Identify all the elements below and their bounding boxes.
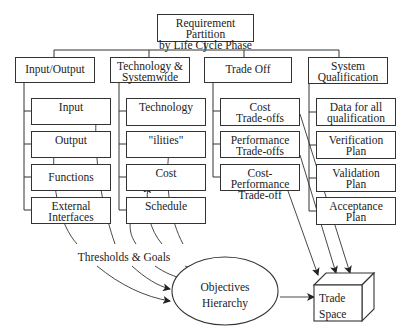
category-technology-systemwide: Technology & Systemwide [110, 57, 190, 83]
root-box: Requirement Partition by Life Cycle Phas… [157, 14, 254, 42]
child-validation-plan: Validation Plan [316, 164, 396, 192]
child-acceptance-plan: Acceptance Plan [316, 197, 396, 225]
thresholds-goals-label: Thresholds & Goals [74, 252, 174, 263]
child-technology: Technology [126, 98, 206, 126]
root-label: Requirement Partition by Life Cycle Phas… [158, 18, 253, 51]
child-functions: Functions [31, 164, 111, 191]
child-cost: Cost [126, 164, 206, 191]
child-input: Input [31, 98, 111, 125]
category-input-output: Input/Output [15, 57, 95, 83]
category-system-qualification: System Qualification [308, 57, 388, 84]
child-output: Output [31, 131, 111, 158]
category-trade-off: Trade Off [204, 57, 292, 83]
trade-space-label: Trade Space [315, 290, 359, 322]
child-schedule: Schedule [126, 197, 206, 224]
child-performance-trade-offs: Performance Trade-offs [220, 131, 300, 158]
child-cost-performance-trade-off: Cost-Performance Trade-off [220, 164, 300, 191]
child-verification-plan: Verification Plan [316, 131, 396, 159]
child-cost-trade-offs: Cost Trade-offs [220, 98, 300, 126]
child-external-interfaces: External Interfaces [31, 197, 111, 224]
child-ilities: "ilities" [126, 131, 206, 158]
objectives-hierarchy-label: Objectives Hierarchy [180, 279, 270, 311]
child-data-for-all-qualification: Data for all qualification [316, 98, 396, 126]
